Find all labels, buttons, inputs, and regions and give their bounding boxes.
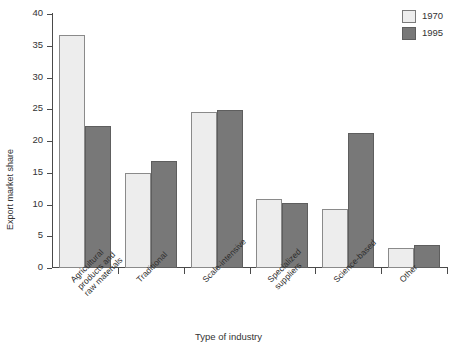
y-axis-tick-label: 25 bbox=[32, 102, 43, 113]
y-axis-tick-mark bbox=[47, 78, 52, 79]
legend-swatch-icon bbox=[402, 10, 416, 23]
bar bbox=[59, 35, 85, 268]
x-axis-tick-mark bbox=[447, 268, 448, 274]
chart-figure: Export market share 0510152025303540 Agr… bbox=[0, 0, 457, 349]
legend: 1970 1995 bbox=[402, 8, 457, 42]
x-axis-title: Type of industry bbox=[0, 331, 457, 342]
y-axis-tick-mark bbox=[47, 109, 52, 110]
legend-item-label: 1995 bbox=[422, 27, 443, 38]
y-axis-tick-label: 20 bbox=[32, 134, 43, 145]
plot-area: 0510152025303540 bbox=[52, 14, 447, 268]
y-axis-tick-label: 35 bbox=[32, 39, 43, 50]
bar bbox=[322, 209, 348, 268]
bar bbox=[256, 199, 282, 268]
y-axis-tick-mark bbox=[47, 46, 52, 47]
y-axis-tick-label: 15 bbox=[32, 166, 43, 177]
bar bbox=[191, 112, 217, 268]
legend-item-label: 1970 bbox=[422, 10, 443, 21]
y-axis-tick-mark bbox=[47, 141, 52, 142]
legend-item-1995[interactable]: 1995 bbox=[402, 25, 457, 42]
legend-item-1970[interactable]: 1970 bbox=[402, 8, 457, 25]
bar bbox=[125, 173, 151, 268]
y-axis-tick-mark bbox=[47, 268, 52, 269]
y-axis-tick-label: 10 bbox=[32, 198, 43, 209]
y-axis-tick-mark bbox=[47, 205, 52, 206]
x-axis-tick-mark bbox=[381, 268, 382, 274]
bar bbox=[414, 245, 440, 268]
x-axis-tick-mark bbox=[184, 268, 185, 274]
y-axis-tick-mark bbox=[47, 236, 52, 237]
y-axis-tick-label: 30 bbox=[32, 71, 43, 82]
legend-swatch-icon bbox=[402, 27, 416, 40]
y-axis-tick-mark bbox=[47, 14, 52, 15]
y-axis-tick-label: 0 bbox=[38, 261, 43, 272]
y-axis-tick-label: 40 bbox=[32, 7, 43, 18]
x-axis-tick-mark bbox=[250, 268, 251, 274]
x-axis-tick-mark bbox=[315, 268, 316, 274]
y-axis-tick-mark bbox=[47, 173, 52, 174]
y-axis-tick-label: 5 bbox=[38, 229, 43, 240]
